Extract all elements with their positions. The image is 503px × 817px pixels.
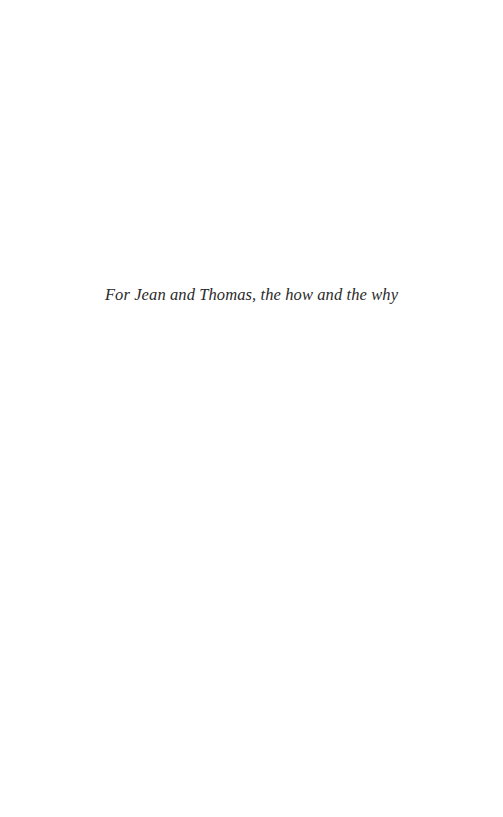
dedication-text: For Jean and Thomas, the how and the why	[0, 285, 503, 305]
book-page: For Jean and Thomas, the how and the why	[0, 0, 503, 817]
